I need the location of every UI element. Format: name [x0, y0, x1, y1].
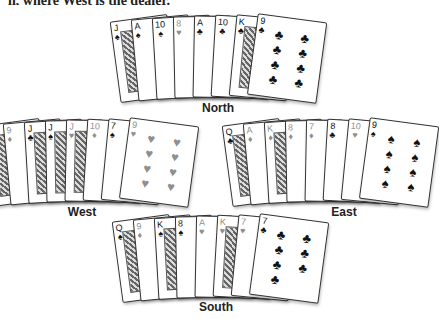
- card-pips: ♥♥♥♥♥♥♥♥: [132, 130, 191, 194]
- hand-label-north: North: [178, 101, 258, 115]
- card-index: A♥: [199, 219, 205, 237]
- card-index: 10♠: [155, 20, 166, 39]
- card-index: 9♠: [370, 121, 377, 140]
- card-index: A♣: [197, 19, 203, 37]
- hand-west: Q♥9♦♦J♣J♠J♥10♦♦7♠♠9♥♥♥♥♥♥♥♥♥: [10, 118, 175, 202]
- card-index: 7♦: [309, 123, 314, 141]
- card-pips: ♣♣♣♣♣♣♣♣: [260, 26, 319, 90]
- card-index: J♠: [113, 24, 120, 42]
- card-index: 9♣: [258, 17, 266, 36]
- card-index: 7♠: [110, 121, 117, 139]
- card-index: J♠: [48, 123, 53, 141]
- hand-north: J♠A♠♠10♠♠8♥♥A♣♣10♣♣K♣9♣♣♣♣♣♣♣♣♣: [138, 14, 298, 98]
- card-index: A♦: [246, 126, 254, 144]
- card-index: 9♥: [130, 121, 138, 140]
- card-index: 8♦: [288, 123, 293, 141]
- card-index: 8♣: [329, 122, 336, 140]
- card-index: A♠: [134, 22, 142, 40]
- card-north-7: 9♣♣♣♣♣♣♣♣♣: [247, 13, 327, 104]
- card-index: 10♥: [350, 121, 362, 140]
- hand-east: Q♣A♦♦K♦8♦♦7♦♦8♣♣10♥♥9♠♠♠♠♠♠♠♠♠: [250, 118, 415, 202]
- card-index: 10♣: [217, 18, 228, 37]
- card-index: 9♦: [6, 126, 13, 144]
- hand-label-west: West: [42, 205, 122, 219]
- card-index: 10♦: [89, 122, 100, 141]
- card-index: J♥: [69, 123, 75, 141]
- card-index: 8♠: [178, 219, 183, 237]
- hand-south: Q♠9♦♦K♠8♠♠A♥♥K♥7♥♥7♣♣♣♣♣♣♣♣: [140, 214, 300, 298]
- card-west-7: 9♥♥♥♥♥♥♥♥♥: [119, 117, 199, 208]
- card-index: 8♥: [176, 19, 182, 37]
- card-index: 7♣: [260, 217, 268, 236]
- card-index: 7♥: [240, 217, 247, 235]
- caption-partial: ll, where West is the dealer.: [0, 0, 431, 5]
- card-index: 9♦: [136, 222, 143, 240]
- card-pips: ♣♣♣♣♣♣♣: [262, 226, 321, 290]
- hand-label-south: South: [176, 300, 256, 314]
- card-south-7: 7♣♣♣♣♣♣♣♣: [249, 213, 329, 304]
- hand-label-east: East: [304, 205, 384, 219]
- card-east-7: 9♠♠♠♠♠♠♠♠♠: [359, 117, 439, 208]
- card-pips: ♠♠♠♠♠♠♠♠: [372, 130, 431, 194]
